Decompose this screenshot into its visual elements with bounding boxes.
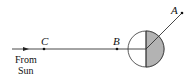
planet-shaded-half — [146, 31, 164, 67]
source-label-line1: From — [15, 54, 37, 65]
point-a — [181, 12, 184, 15]
label-b: B — [113, 35, 120, 47]
label-a: A — [170, 4, 178, 16]
line-to-a — [146, 13, 182, 49]
diagram-canvas: A B C From Sun — [0, 0, 191, 80]
point-c — [43, 48, 46, 51]
diagram-svg: A B C From Sun — [0, 0, 191, 80]
arrow-head-icon — [23, 47, 29, 51]
source-label-line2: Sun — [18, 65, 34, 76]
label-c: C — [41, 35, 49, 47]
point-b — [116, 48, 119, 51]
